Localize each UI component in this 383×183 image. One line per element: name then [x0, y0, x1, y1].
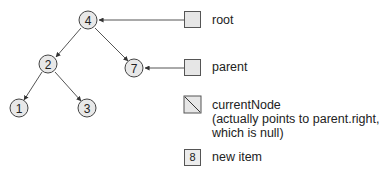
edge-4-7: [95, 28, 128, 61]
current-node-note-line1: (actually points to parent.right,: [212, 112, 379, 126]
svg-text:3: 3: [84, 102, 91, 116]
parent-pointer-box: [184, 59, 201, 76]
current-node-note-line2: which is null): [212, 126, 284, 140]
root-pointer-box: [184, 11, 201, 28]
current-node-box: [184, 96, 201, 113]
parent-label: parent: [212, 60, 247, 74]
tree-nodes: 4 2 7 1 3: [10, 11, 143, 117]
new-item-label: new item: [212, 150, 262, 164]
edge-2-3: [55, 72, 81, 101]
tree-node-2: 2: [39, 55, 57, 73]
current-node-label: currentNode: [212, 98, 281, 112]
tree-node-4: 4: [79, 11, 97, 29]
svg-text:7: 7: [131, 62, 138, 76]
tree-node-1: 1: [10, 99, 28, 117]
tree-node-3: 3: [78, 99, 96, 117]
edge-4-2: [56, 28, 81, 57]
diagram-canvas: 4 2 7 1 3 root: [0, 0, 383, 183]
root-label: root: [212, 13, 234, 27]
svg-text:1: 1: [16, 102, 23, 116]
svg-text:4: 4: [85, 14, 92, 28]
edge-2-1: [24, 72, 42, 100]
tree-node-7: 7: [125, 59, 143, 77]
svg-text:2: 2: [45, 58, 52, 72]
new-item-box: 8: [184, 149, 201, 166]
